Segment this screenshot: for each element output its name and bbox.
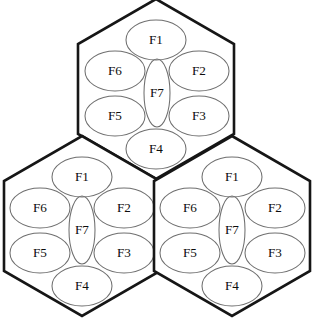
top-hexagon-sector-f4[interactable]: F4 <box>126 129 186 169</box>
top-hexagon-sector-f1[interactable]: F1 <box>126 20 186 60</box>
sector-label-f2: F2 <box>192 63 206 78</box>
bottom-left-hexagon-sector-f1[interactable]: F1 <box>52 157 112 197</box>
sector-label-f2: F2 <box>117 200 131 215</box>
sector-label-f5: F5 <box>108 108 122 123</box>
sector-label-f3: F3 <box>192 108 206 123</box>
top-hexagon-sector-f6[interactable]: F6 <box>85 51 145 91</box>
bottom-right-hexagon-sector-f4[interactable]: F4 <box>202 266 262 306</box>
sector-label-f1: F1 <box>75 169 89 184</box>
sector-label-f7: F7 <box>150 85 164 100</box>
bottom-right-hexagon-sector-f2[interactable]: F2 <box>245 188 305 228</box>
sector-label-f1: F1 <box>149 32 163 47</box>
bottom-right-hexagon-sector-f3[interactable]: F3 <box>245 233 305 273</box>
sector-label-f7: F7 <box>75 222 89 237</box>
sector-label-f3: F3 <box>117 245 131 260</box>
sector-label-f3: F3 <box>268 245 282 260</box>
sector-label-f5: F5 <box>183 245 197 260</box>
sector-label-f6: F6 <box>33 200 47 215</box>
sector-label-f4: F4 <box>149 141 163 156</box>
sector-label-f4: F4 <box>75 278 89 293</box>
bottom-left-hexagon-sector-f6[interactable]: F6 <box>10 188 70 228</box>
sector-label-f4: F4 <box>225 278 239 293</box>
sector-label-f1: F1 <box>225 169 239 184</box>
top-hexagon-sector-f5[interactable]: F5 <box>85 96 145 136</box>
bottom-right-hexagon-sector-f6[interactable]: F6 <box>160 188 220 228</box>
sector-label-f6: F6 <box>183 200 197 215</box>
top-hexagon-sector-f3[interactable]: F3 <box>169 96 229 136</box>
hexagon-cluster-diagram: F1F2F3F4F5F6F7F1F2F3F4F5F6F7F1F2F3F4F5F6… <box>0 0 312 324</box>
bottom-left-hexagon-sector-f5[interactable]: F5 <box>10 233 70 273</box>
bottom-right-hexagon-sector-f7[interactable]: F7 <box>219 196 245 264</box>
bottom-right-hexagon-sector-f1[interactable]: F1 <box>202 157 262 197</box>
bottom-left-hexagon-sector-f4[interactable]: F4 <box>52 266 112 306</box>
sector-label-f2: F2 <box>268 200 282 215</box>
sector-label-f7: F7 <box>225 222 239 237</box>
top-hexagon-sector-f2[interactable]: F2 <box>169 51 229 91</box>
bottom-left-hexagon-sector-f7[interactable]: F7 <box>69 196 95 264</box>
sector-label-f6: F6 <box>108 63 122 78</box>
sector-label-f5: F5 <box>33 245 47 260</box>
bottom-right-hexagon-sector-f5[interactable]: F5 <box>160 233 220 273</box>
bottom-left-hexagon-sector-f3[interactable]: F3 <box>94 233 154 273</box>
bottom-left-hexagon-sector-f2[interactable]: F2 <box>94 188 154 228</box>
top-hexagon-sector-f7[interactable]: F7 <box>144 59 170 127</box>
cluster-canvas: F1F2F3F4F5F6F7F1F2F3F4F5F6F7F1F2F3F4F5F6… <box>0 0 312 324</box>
